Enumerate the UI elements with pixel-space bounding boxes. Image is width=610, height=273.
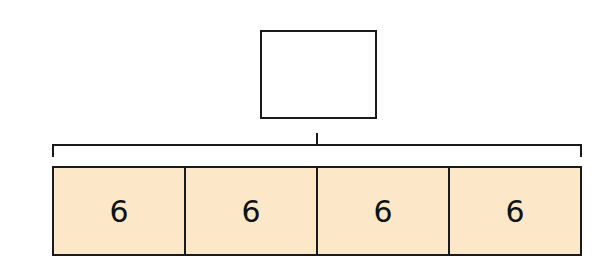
part-cell-2: 6 <box>186 168 318 254</box>
part-cell-3: 6 <box>318 168 450 254</box>
bracket-center-tick <box>316 133 318 145</box>
whole-answer-box[interactable] <box>260 30 377 119</box>
part-cell-4: 6 <box>450 168 580 254</box>
bracket-right-tick <box>580 144 582 157</box>
part-cell-1: 6 <box>54 168 186 254</box>
parts-bar: 6 6 6 6 <box>52 166 582 256</box>
bracket-left-tick <box>52 144 54 157</box>
